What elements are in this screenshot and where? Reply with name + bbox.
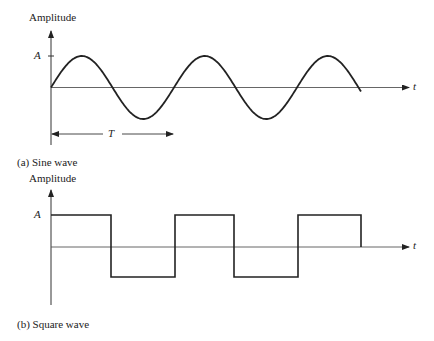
square-a-label: A	[34, 208, 41, 220]
square-caption: (b) Square wave	[17, 318, 89, 330]
square-curve	[51, 215, 361, 277]
sine-caption: (a) Sine wave	[17, 156, 77, 168]
sine-a-label: A	[34, 49, 41, 61]
square-t-label: t	[413, 239, 416, 251]
sine-panel	[48, 31, 409, 145]
period-label: T	[108, 127, 114, 139]
waveform-diagram	[0, 0, 434, 341]
square-ylabel: Amplitude	[29, 172, 76, 184]
square-panel	[51, 190, 409, 305]
sine-ylabel: Amplitude	[29, 11, 76, 23]
sine-t-label: t	[413, 80, 416, 92]
